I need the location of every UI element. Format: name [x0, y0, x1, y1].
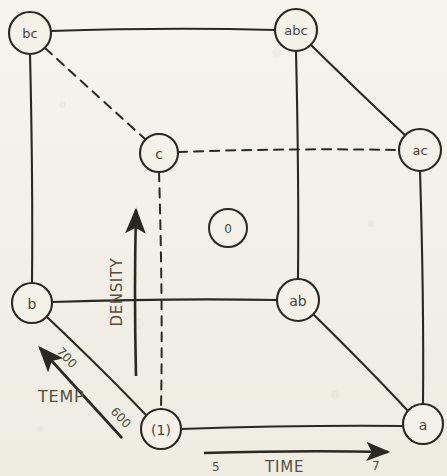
edge-abc-ac — [311, 45, 406, 136]
node-b-label: b — [28, 296, 37, 312]
node-abc-label: abc — [284, 23, 307, 38]
node-a[interactable]: a — [403, 404, 443, 444]
time-axis-label: TIME — [264, 458, 304, 476]
density-arrow — [135, 210, 136, 376]
node-ac[interactable]: ac — [399, 129, 441, 171]
node-one-label: (1) — [151, 422, 171, 438]
edge-ac-a — [420, 171, 423, 404]
node-c-label: c — [155, 146, 163, 162]
density-axis-label: DENSITY — [108, 257, 126, 326]
edge-abc-ab — [296, 51, 298, 279]
time-arrow — [204, 451, 388, 453]
factorial-cube-diagram: DENSITY TEMP 700 600 5 TIME 7 bc abc — [0, 0, 447, 476]
edge-bc-c — [45, 48, 145, 139]
time-low-value: 5 — [212, 460, 220, 474]
axis-time: 5 TIME 7 — [204, 451, 388, 476]
node-center-0[interactable]: 0 — [209, 209, 247, 247]
node-ac-label: ac — [412, 143, 427, 158]
node-ab-label: ab — [289, 293, 307, 309]
edge-c-one — [159, 172, 162, 409]
edge-bc-b — [30, 54, 32, 283]
edge-c-ac — [178, 149, 399, 152]
edge-b-ab — [52, 299, 277, 302]
axis-density: DENSITY — [108, 210, 136, 376]
temp-axis-label: TEMP — [37, 387, 85, 406]
node-one[interactable]: (1) — [141, 409, 181, 449]
edge-ab-a — [313, 314, 408, 411]
node-abc[interactable]: abc — [275, 9, 317, 51]
node-c[interactable]: c — [140, 134, 178, 172]
node-bc-label: bc — [22, 26, 37, 41]
axis-temp: TEMP 700 600 — [37, 344, 134, 438]
node-a-label: a — [419, 417, 428, 433]
node-bc[interactable]: bc — [9, 12, 51, 54]
node-ab[interactable]: ab — [277, 279, 319, 321]
node-b[interactable]: b — [12, 283, 52, 323]
diagram-canvas: DENSITY TEMP 700 600 5 TIME 7 bc abc — [0, 0, 447, 476]
edge-bc-abc — [51, 29, 275, 31]
time-high-value: 7 — [372, 459, 380, 473]
edge-one-a — [181, 426, 403, 429]
node-center-0-label: 0 — [224, 222, 232, 236]
